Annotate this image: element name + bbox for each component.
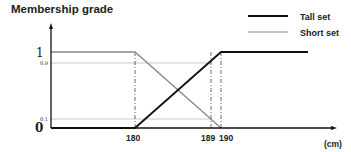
ytick-0: 0 (35, 121, 43, 135)
membership-chart: Membership grade Tall set Short set 1 0.… (0, 0, 351, 152)
ytick-1: 1 (36, 46, 44, 60)
series-short-set (51, 52, 221, 128)
chart-title: Membership grade (11, 3, 113, 15)
legend: Tall set Short set (248, 12, 339, 38)
xtick-180: 180 (126, 133, 140, 143)
y-axis-arrow-icon (49, 23, 53, 29)
legend-tall-label: Tall set (300, 12, 330, 22)
xtick-189: 189 (201, 133, 215, 143)
x-unit-label: (cm) (324, 139, 342, 149)
ytick-0.9: 0.9 (40, 60, 48, 66)
x-axis-arrow-icon (331, 126, 337, 130)
series-tall-set (51, 52, 308, 128)
xtick-190: 190 (219, 133, 233, 143)
legend-short-label: Short set (300, 28, 339, 38)
